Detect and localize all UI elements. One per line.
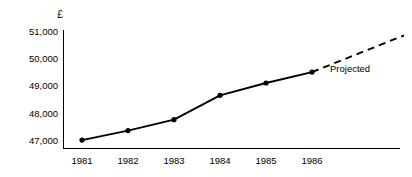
x-tick-label-1982: 1982: [117, 155, 138, 166]
x-tick-label-1983: 1983: [163, 155, 184, 166]
y-tick-label-48000: 48,000: [29, 108, 58, 119]
projected-annotation-label: Projected: [330, 63, 370, 74]
data-point: [79, 138, 84, 143]
x-tick-label-1984: 1984: [209, 155, 230, 166]
y-tick-label-50000: 50,000: [29, 53, 58, 64]
y-tick-label-51000: 51,000: [29, 26, 58, 37]
data-point: [125, 128, 130, 133]
y-axis-unit-label: £: [57, 9, 63, 20]
y-tick-label-47000: 47,000: [29, 135, 58, 146]
data-point: [171, 117, 176, 122]
chart-axes: [64, 30, 401, 149]
data-point: [309, 70, 314, 75]
line-chart: £ 51,000 50,000 49,000 48,000 47,000 198…: [0, 0, 412, 177]
x-tick-label-1985: 1985: [255, 155, 276, 166]
data-point: [217, 93, 222, 98]
y-tick-label-49000: 49,000: [29, 80, 58, 91]
actual-series-line: [82, 72, 312, 140]
chart-canvas: £ 51,000 50,000 49,000 48,000 47,000 198…: [0, 0, 412, 177]
data-point: [263, 80, 268, 85]
x-tick-label-1981: 1981: [71, 155, 92, 166]
x-tick-label-1986: 1986: [301, 155, 322, 166]
